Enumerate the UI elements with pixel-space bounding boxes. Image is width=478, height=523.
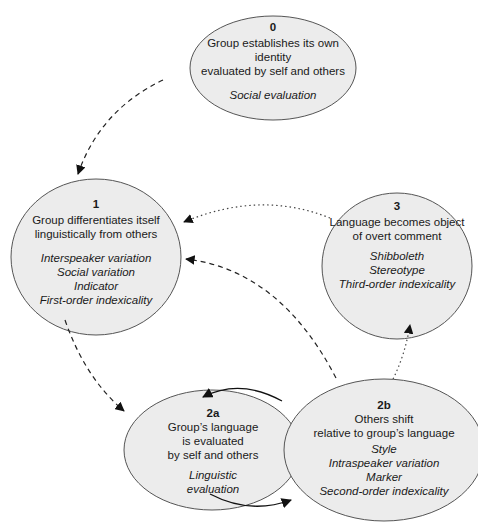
node-1-description-line: linguistically from others	[11, 227, 181, 241]
node-1-terms: Interspeaker variation Social variation …	[11, 251, 181, 307]
node-1-number: 1	[11, 197, 181, 211]
edge-0-to-1	[78, 80, 163, 174]
node-3: 3 Language becomes object of overt comme…	[322, 199, 472, 291]
node-2a-number: 2a	[130, 406, 296, 420]
node-3-term: Stereotype	[322, 263, 472, 277]
node-2b-description-line: Others shift	[284, 412, 478, 426]
node-2b-term: Second-order indexicality	[284, 484, 478, 498]
node-2b: 2b Others shift relative to group’s lang…	[284, 398, 478, 498]
node-2a-term: evaluation	[130, 482, 296, 496]
node-2a-term: Linguistic	[130, 468, 296, 482]
edge-3-to-1	[184, 205, 330, 222]
node-2a-terms: Linguistic evaluation	[130, 468, 296, 496]
node-2b-term: Intraspeaker variation	[284, 456, 478, 470]
node-2b-number: 2b	[284, 398, 478, 412]
node-2b-description-line: relative to group’s language	[284, 426, 478, 440]
edge-2b-to-1	[186, 259, 336, 378]
node-2b-terms: Style Intraspeaker variation Marker Seco…	[284, 442, 478, 498]
node-3-description-line: of overt comment	[322, 229, 472, 243]
node-3-terms: Shibboleth Stereotype Third-order indexi…	[322, 249, 472, 291]
node-0-description-line: Group establishes its own identity	[190, 36, 356, 64]
node-2a-description-line: Group’s language	[130, 420, 296, 434]
node-2a-description-line: is evaluated	[130, 434, 296, 448]
node-1-term: Social variation	[11, 265, 181, 279]
node-1-term: Indicator	[11, 279, 181, 293]
node-0-term: Social evaluation	[190, 88, 356, 102]
node-1-term: First-order indexicality	[11, 293, 181, 307]
node-3-description-line: Language becomes object	[322, 215, 472, 229]
node-1: 1 Group differentiates itself linguistic…	[11, 197, 181, 307]
node-0-number: 0	[190, 20, 356, 34]
node-2a-description-line: by self and others	[130, 448, 296, 462]
node-2b-term: Marker	[284, 470, 478, 484]
node-0: 0 Group establishes its own identity eva…	[190, 20, 356, 102]
node-3-number: 3	[322, 199, 472, 213]
node-0-terms: Social evaluation	[190, 88, 356, 102]
node-2b-term: Style	[284, 442, 478, 456]
node-3-term: Shibboleth	[322, 249, 472, 263]
node-1-description-line: Group differentiates itself	[11, 213, 181, 227]
node-1-term: Interspeaker variation	[11, 251, 181, 265]
node-0-description-line: evaluated by self and others	[190, 64, 356, 78]
node-3-term: Third-order indexicality	[322, 277, 472, 291]
node-2a: 2a Group’s language is evaluated by self…	[130, 406, 296, 496]
